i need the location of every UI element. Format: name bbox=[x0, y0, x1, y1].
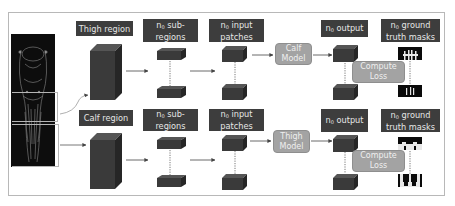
input-patches-label: n0 input patches bbox=[209, 19, 264, 42]
subregions-label: n0 sub-regions bbox=[143, 19, 198, 42]
output-label: n0 output bbox=[321, 20, 368, 37]
ground-truth-mask-calf-1 bbox=[398, 137, 422, 150]
compute-loss-box: Compute Loss bbox=[352, 61, 405, 83]
thigh-region-volume bbox=[90, 44, 122, 100]
input-patches-label: n0 input patches bbox=[209, 109, 264, 131]
ground-truth-masks-label: n0 ground truth masks bbox=[381, 19, 440, 42]
calf-region-label: Calf region bbox=[79, 110, 133, 126]
calf-model-box: Calf Model bbox=[275, 43, 312, 65]
calf-region-volume bbox=[90, 133, 122, 189]
compute-loss-box: Compute Loss bbox=[352, 150, 405, 172]
ground-truth-masks-label: n0 ground truth masks bbox=[381, 109, 440, 132]
subregions-label: n0 sub-regions bbox=[143, 109, 198, 131]
ground-truth-mask-thigh-2 bbox=[398, 85, 422, 97]
ground-truth-mask-thigh-1 bbox=[398, 47, 422, 60]
ground-truth-mask-calf-2 bbox=[398, 174, 422, 187]
thigh-region-label: Thigh region bbox=[76, 21, 133, 36]
output-label: n0 output bbox=[321, 109, 368, 132]
thigh-model-box: Thigh Model bbox=[273, 130, 310, 153]
